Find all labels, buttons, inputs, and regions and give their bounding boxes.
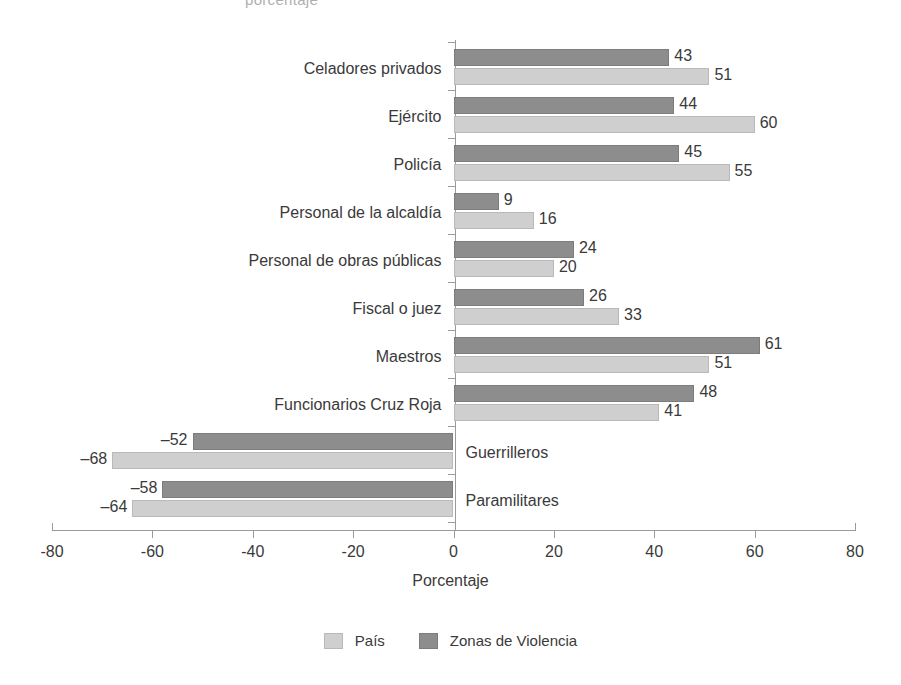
- row-tick-mark: [448, 42, 456, 43]
- bar-value-label: 43: [674, 47, 692, 64]
- x-tick-label: 60: [746, 543, 764, 561]
- bar-value-label: 48: [699, 383, 717, 400]
- bar-zonas-de-violencia: [454, 193, 499, 210]
- bar-value-label: –52: [161, 431, 188, 448]
- bar-pais: [454, 116, 755, 133]
- x-tick-mark: [755, 530, 756, 538]
- x-tick-mark: [454, 530, 455, 538]
- bar-value-label: 16: [539, 210, 557, 227]
- legend-swatch-pais: [324, 633, 343, 649]
- bar-pais: [454, 68, 710, 85]
- bar-value-label: 51: [714, 354, 732, 371]
- bar-row: 916Personal de la alcaldía: [52, 190, 855, 238]
- legend-item-zonas-de-violencia: Zonas de Violencia: [419, 632, 577, 649]
- row-tick-mark: [448, 522, 456, 523]
- x-tick-mark: [855, 523, 856, 531]
- bar-zonas-de-violencia: [454, 289, 584, 306]
- bar-pais: [454, 356, 710, 373]
- bar-zonas-de-violencia: [162, 481, 453, 498]
- bar-row: –52–68Guerrilleros: [52, 430, 855, 478]
- bar-zonas-de-violencia: [454, 241, 574, 258]
- row-tick-mark: [448, 186, 456, 187]
- legend-label-zonas-de-violencia: Zonas de Violencia: [450, 632, 577, 649]
- legend-item-pais: País: [324, 632, 385, 649]
- bar-value-label: 60: [760, 114, 778, 131]
- x-tick-label: -40: [241, 543, 264, 561]
- category-label: Personal de la alcaldía: [52, 203, 442, 223]
- x-tick-mark: [152, 530, 153, 538]
- x-tick-label: -20: [342, 543, 365, 561]
- category-label: Fiscal o juez: [52, 299, 442, 319]
- x-tick-mark: [353, 530, 354, 538]
- bar-row: 6151Maestros: [52, 334, 855, 382]
- bar-pais: [454, 212, 534, 229]
- bar-zonas-de-violencia: [454, 97, 675, 114]
- bar-zonas-de-violencia: [454, 337, 760, 354]
- category-label: Ejército: [52, 107, 442, 127]
- bar-row: 4555Policía: [52, 142, 855, 190]
- bar-value-label: 45: [684, 143, 702, 160]
- bar-pais: [454, 308, 620, 325]
- row-tick-mark: [448, 282, 456, 283]
- x-tick-mark: [253, 530, 254, 538]
- plot-area: 4351Celadores privados4460Ejército4555Po…: [52, 40, 855, 530]
- x-tick-label: -80: [40, 543, 63, 561]
- cut-off-title: porcentaje: [245, 0, 318, 8]
- bar-row: 2420Personal de obras públicas: [52, 238, 855, 286]
- bar-pais: [132, 500, 453, 517]
- bar-zonas-de-violencia: [454, 145, 680, 162]
- row-tick-mark: [448, 378, 456, 379]
- bar-row: 4351Celadores privados: [52, 46, 855, 94]
- bar-value-label: 41: [664, 402, 682, 419]
- bar-pais: [454, 164, 730, 181]
- chart-legend: País Zonas de Violencia: [0, 632, 901, 649]
- bar-row: 4841Funcionarios Cruz Roja: [52, 382, 855, 430]
- row-tick-mark: [448, 234, 456, 235]
- row-tick-mark: [448, 138, 456, 139]
- x-tick-label: -60: [141, 543, 164, 561]
- x-tick-label: 20: [545, 543, 563, 561]
- bar-row: 4460Ejército: [52, 94, 855, 142]
- category-label: Celadores privados: [52, 59, 442, 79]
- bar-pais: [112, 452, 453, 469]
- bar-pais: [454, 404, 660, 421]
- x-tick-label: 80: [846, 543, 864, 561]
- category-label: Policía: [52, 155, 442, 175]
- bar-zonas-de-violencia: [454, 49, 670, 66]
- bar-value-label: 26: [589, 287, 607, 304]
- bar-zonas-de-violencia: [193, 433, 454, 450]
- bar-value-label: –64: [101, 498, 128, 515]
- bar-value-label: –68: [81, 450, 108, 467]
- bar-value-label: –58: [131, 479, 158, 496]
- bar-value-label: 61: [765, 335, 783, 352]
- bar-value-label: 24: [579, 239, 597, 256]
- x-tick-label: 0: [449, 543, 458, 561]
- bar-value-label: 55: [735, 162, 753, 179]
- bar-value-label: 33: [624, 306, 642, 323]
- bar-value-label: 9: [504, 191, 513, 208]
- bar-row: 2633Fiscal o juez: [52, 286, 855, 334]
- category-label: Paramilitares: [466, 491, 559, 511]
- category-label: Guerrilleros: [466, 443, 549, 463]
- x-tick-mark: [52, 523, 53, 531]
- x-tick-mark: [654, 530, 655, 538]
- row-tick-mark: [448, 426, 456, 427]
- category-label: Maestros: [52, 347, 442, 367]
- bar-row: –58–64Paramilitares: [52, 478, 855, 526]
- x-tick-label: 40: [645, 543, 663, 561]
- bar-pais: [454, 260, 554, 277]
- row-tick-mark: [448, 330, 456, 331]
- legend-label-pais: País: [355, 632, 385, 649]
- bar-value-label: 51: [714, 66, 732, 83]
- category-label: Personal de obras públicas: [52, 251, 442, 271]
- row-tick-mark: [448, 474, 456, 475]
- legend-swatch-zonas-de-violencia: [419, 633, 438, 649]
- bar-zonas-de-violencia: [454, 385, 695, 402]
- row-tick-mark: [448, 90, 456, 91]
- bar-value-label: 20: [559, 258, 577, 275]
- bar-value-label: 44: [679, 95, 697, 112]
- x-tick-mark: [554, 530, 555, 538]
- bar-chart: porcentaje 4351Celadores privados4460Ejé…: [0, 0, 901, 685]
- x-axis-title: Porcentaje: [0, 572, 901, 590]
- category-label: Funcionarios Cruz Roja: [52, 395, 442, 415]
